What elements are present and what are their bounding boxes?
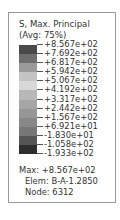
colorbar-ticks: +8.567e+02 +7.692e+02 +6.817e+02 +5.942e… [37,40,98,158]
legend-title: S, Max. Principal (Avg: 75%) [19,19,90,41]
colorbar-band [19,81,37,90]
contour-legend: S, Max. Principal (Avg: 75%) +8.567e+02 … [8,12,116,203]
max-node: Node: 6312 [19,187,98,198]
tick-mark [37,62,43,63]
tick-mark [37,44,43,45]
colorbar-band [19,100,37,109]
tick-mark [37,108,43,109]
tick-mark [37,99,43,100]
colorbar-band [19,136,37,145]
max-element: Elem: B-A-1.2850 [19,176,98,187]
colorbar-band [19,127,37,136]
colorbar-band [19,145,37,154]
extreme-value-info: Max: +8.567e+02 Elem: B-A-1.2850 Node: 6… [19,165,98,198]
tick-mark [37,53,43,54]
tick-mark [37,89,43,90]
colorbar [19,45,37,154]
tick-mark [37,135,43,136]
colorbar-band [19,63,37,72]
tick-label: -1.933e+02 [37,149,98,158]
tick-mark [37,80,43,81]
colorbar-band [19,45,37,54]
max-value: Max: +8.567e+02 [19,165,98,176]
colorbar-band [19,54,37,63]
colorbar-band [19,90,37,99]
colorbar-band [19,118,37,127]
tick-mark [37,144,43,145]
tick-mark [37,153,43,154]
tick-mark [37,126,43,127]
tick-mark [37,71,43,72]
legend-title-variable: S, Max. Principal [19,19,90,30]
colorbar-band [19,109,37,118]
tick-mark [37,117,43,118]
colorbar-band [19,72,37,81]
